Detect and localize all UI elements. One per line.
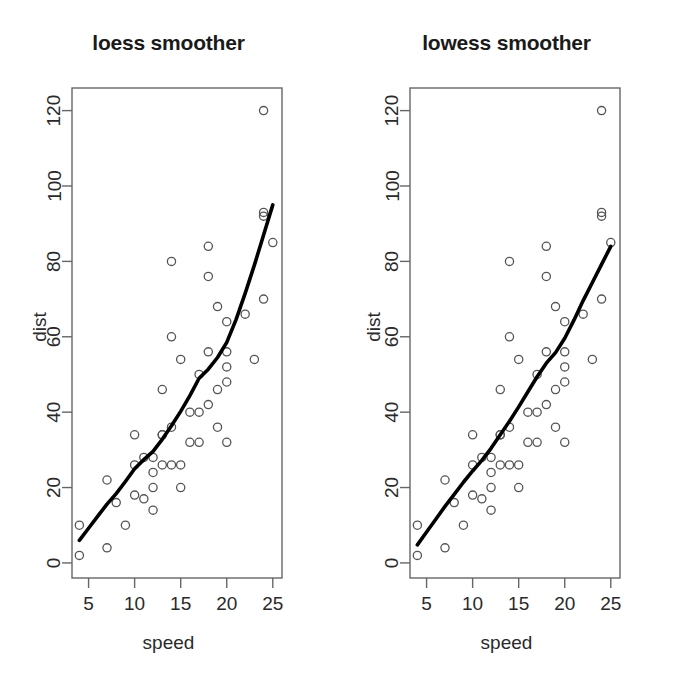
svg-text:120: 120 (382, 95, 403, 127)
svg-text:5: 5 (83, 593, 94, 614)
scatter-plot-lowess: 020406080100120510152025 (338, 0, 675, 689)
svg-text:10: 10 (462, 593, 483, 614)
svg-text:25: 25 (262, 593, 283, 614)
svg-text:5: 5 (421, 593, 432, 614)
svg-text:15: 15 (508, 593, 529, 614)
svg-text:80: 80 (44, 251, 65, 272)
svg-text:80: 80 (382, 251, 403, 272)
x-axis-title-loess: speed (0, 632, 337, 654)
svg-text:100: 100 (44, 170, 65, 202)
svg-text:100: 100 (382, 170, 403, 202)
svg-text:0: 0 (382, 558, 403, 569)
y-axis-title-loess: dist (29, 299, 51, 355)
svg-text:40: 40 (382, 402, 403, 423)
plot-panel-lowess: lowess smoother 020406080100120510152025… (338, 0, 675, 689)
svg-text:20: 20 (554, 593, 575, 614)
svg-text:15: 15 (170, 593, 191, 614)
y-axis-title-lowess: dist (363, 299, 385, 355)
figure-canvas: loess smoother 020406080100120510152025 … (0, 0, 675, 689)
x-axis-title-lowess: speed (338, 632, 675, 654)
svg-text:10: 10 (124, 593, 145, 614)
plot-panel-loess: loess smoother 020406080100120510152025 … (0, 0, 337, 689)
svg-text:20: 20 (382, 477, 403, 498)
svg-text:40: 40 (44, 402, 65, 423)
svg-text:25: 25 (600, 593, 621, 614)
svg-text:20: 20 (216, 593, 237, 614)
svg-text:120: 120 (44, 95, 65, 127)
svg-text:20: 20 (44, 477, 65, 498)
svg-text:0: 0 (44, 558, 65, 569)
